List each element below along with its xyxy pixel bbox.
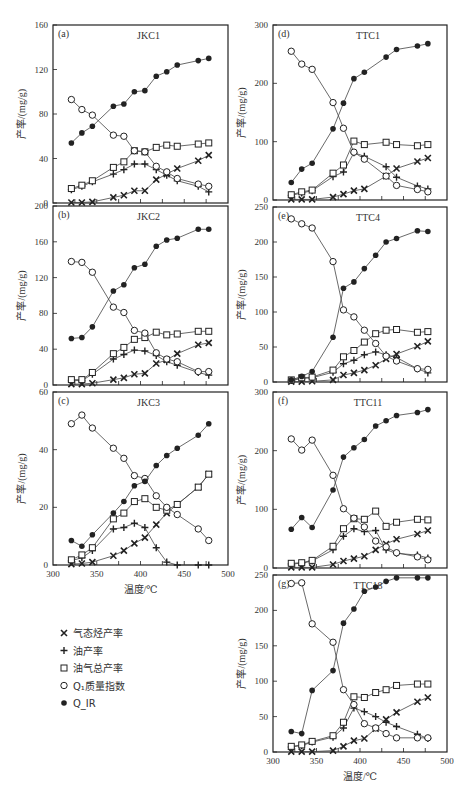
y-tick-label: 200 (35, 201, 49, 211)
panel-title: TTC1 (356, 30, 380, 41)
panel-letter: (e) (278, 210, 289, 222)
panel-title: TTC4 (356, 212, 380, 223)
y-axis-title: 产率/(mg/g) (235, 88, 248, 138)
y-tick-label: 50 (259, 342, 269, 352)
series-filled-circle (288, 575, 430, 736)
y-axis-title: 产率/(mg/g) (235, 270, 248, 320)
y-tick-label: 250 (255, 570, 269, 580)
series-filled-circle (288, 41, 430, 185)
y-tick-label: 160 (35, 20, 49, 30)
y-tick-label: 40 (39, 154, 49, 164)
legend-item-label: Q₁质量指数 (73, 680, 125, 692)
panel-title: JKC3 (137, 397, 160, 408)
y-tick-label: 20 (39, 502, 49, 512)
series-square (288, 327, 431, 383)
panel-title: TTC11 (354, 397, 383, 408)
x-axis-title: 温度/℃ (124, 583, 158, 595)
y-tick-label: 60 (39, 387, 49, 397)
panel-letter: (c) (58, 395, 69, 407)
panel-letter: (f) (278, 395, 288, 407)
series-+ (68, 520, 212, 569)
y-tick-label: 80 (39, 109, 49, 119)
x-tick-label: 300 (266, 756, 280, 766)
y-tick-label: 150 (255, 641, 269, 651)
y-tick-label: 200 (255, 446, 269, 456)
plot-frame (53, 206, 228, 385)
panel-letter: (b) (58, 209, 70, 221)
y-tick-label: 40 (39, 445, 49, 455)
panel-ttc18: 050100150200250300350400450500温度/℃产率/(mg… (235, 570, 454, 782)
series-open-circle (68, 96, 212, 189)
series-filled-circle (288, 407, 430, 532)
y-tick-label: 100 (255, 137, 269, 147)
x-tick-label: 450 (178, 569, 192, 579)
x-tick-label: 400 (353, 756, 367, 766)
series-square (288, 138, 431, 198)
panel-letter: (a) (58, 28, 69, 40)
plot-frame (53, 392, 228, 565)
y-tick-label: 100 (255, 676, 269, 686)
series-x (288, 527, 431, 570)
y-tick-label: 40 (39, 344, 49, 354)
series-filled-circle (69, 56, 212, 146)
y-tick-label: 160 (35, 237, 49, 247)
plot-frame (53, 25, 228, 203)
series-square (68, 328, 211, 382)
series-open-circle (288, 48, 431, 195)
y-tick-label: 120 (35, 65, 49, 75)
x-tick-label: 350 (90, 569, 104, 579)
plot-frame (273, 207, 447, 382)
figure-canvas: 04080120160产率/(mg/g)(a)JKC10408012016020… (0, 0, 469, 788)
y-tick-label: 300 (255, 387, 269, 397)
x-axis-title: 温度/℃ (343, 770, 377, 782)
panel-jkc2: 04080120160200产率/(mg/g)(b)JKC2 (15, 201, 228, 390)
y-axis-title: 产率/(mg/g) (235, 639, 248, 689)
series-open-circle (68, 412, 212, 544)
x-tick-label: 300 (46, 569, 60, 579)
y-tick-label: 120 (35, 273, 49, 283)
y-tick-label: 200 (255, 605, 269, 615)
series-+ (68, 347, 212, 384)
series-filled-circle (288, 228, 430, 383)
y-tick-label: 50 (259, 712, 269, 722)
y-axis-title: 产率/(mg/g) (15, 89, 28, 139)
y-tick-label: 200 (255, 78, 269, 88)
plot-frame (273, 575, 447, 752)
panel-title: JKC2 (137, 211, 160, 222)
y-tick-label: 100 (255, 504, 269, 514)
legend-item-label: 气态烃产率 (73, 627, 123, 639)
panel-ttc11: 0100200300产率/(mg/g)(f)TTC11 (235, 387, 447, 573)
x-tick-label: 350 (310, 756, 324, 766)
y-axis-title: 产率/(mg/g) (15, 271, 28, 321)
y-axis-title: 产率/(mg/g) (15, 454, 28, 504)
series-open-circle (68, 258, 212, 374)
legend-item-label: Q_IR (73, 698, 96, 710)
panel-ttc4: 050100150200250产率/(mg/g)(e)TTC4 (235, 202, 447, 387)
legend-item-label: 油产率 (73, 645, 103, 657)
x-tick-label: 400 (134, 569, 148, 579)
series-filled-circle (69, 421, 212, 549)
panel-jkc3: 0204060300350400450500温度/℃产率/(mg/g)(c)JK… (15, 387, 235, 595)
series-open-circle (288, 436, 431, 563)
series-square (68, 471, 211, 563)
series-x (68, 340, 211, 387)
x-tick-label: 500 (440, 756, 454, 766)
y-tick-label: 100 (255, 307, 269, 317)
panel-jkc1: 04080120160产率/(mg/g)(a)JKC1 (15, 20, 228, 208)
legend-item-label: 油气总产率 (73, 662, 123, 674)
panel-ttc1: 0100200300产率/(mg/g)(d)TTC1 (235, 20, 447, 205)
plot-frame (273, 392, 447, 568)
y-tick-label: 150 (255, 272, 269, 282)
y-tick-label: 300 (255, 20, 269, 30)
plot-frame (273, 25, 447, 200)
y-tick-label: 250 (255, 202, 269, 212)
y-tick-label: 200 (255, 237, 269, 247)
series-filled-circle (69, 226, 212, 341)
x-tick-label: 450 (397, 756, 411, 766)
panel-title: JKC1 (137, 30, 160, 41)
y-axis-title: 产率/(mg/g) (235, 455, 248, 505)
x-tick-label: 500 (221, 569, 235, 579)
series-open-circle (288, 580, 431, 741)
y-tick-label: 0 (264, 377, 269, 387)
legend: 气态烃产率油产率油气总产率Q₁质量指数Q_IR (61, 627, 125, 710)
